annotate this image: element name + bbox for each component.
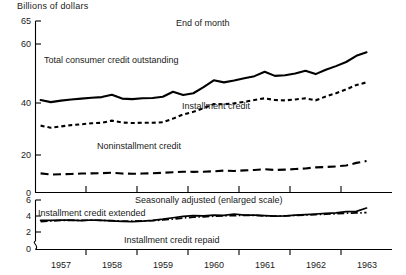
xtick-1958: 1958 [102, 260, 122, 270]
series-noninstallment-credit [41, 161, 367, 175]
bot-ytick-6: 6 [26, 195, 31, 205]
xtick-1959: 1959 [153, 260, 173, 270]
xtick-1962: 1962 [306, 260, 326, 270]
annotation-noninstallment-credit: Noninstallment credit [97, 141, 182, 151]
xtick-1957: 1957 [51, 260, 71, 270]
annotation-credit-extended: Installment credit extended [38, 208, 146, 218]
top-panel-y-tick-labels: 65 60 40 20 0 [21, 16, 31, 198]
xtick-1963: 1963 [357, 260, 377, 270]
chart-canvas: 65 60 40 20 0 End of month Total consume… [0, 0, 406, 275]
top-ytick-60: 60 [21, 39, 31, 49]
bot-ytick-2: 2 [26, 227, 31, 237]
bottom-panel-y-tick-labels: 6 4 2 0 [26, 195, 31, 254]
annotation-seasonally-adjusted: Seasonally adjusted (enlarged scale) [135, 195, 283, 205]
top-ytick-20: 20 [21, 150, 31, 160]
annotation-total-consumer-credit: Total consumer credit outstanding [44, 55, 179, 65]
top-ytick-40: 40 [21, 98, 31, 108]
xtick-1960: 1960 [204, 260, 224, 270]
annotation-credit-repaid: Installment credit repaid [124, 235, 220, 245]
bot-ytick-0: 0 [26, 244, 31, 254]
xtick-1961: 1961 [255, 260, 275, 270]
top-ytick-65: 65 [21, 16, 31, 26]
consumer-credit-figure: Billions of dollars 65 60 40 20 0 [0, 0, 406, 275]
bot-ytick-4: 4 [26, 211, 31, 221]
annotation-end-of-month: End of month [176, 18, 230, 28]
annotation-installment-credit: Installment credit [182, 101, 251, 111]
x-tick-labels: 1957 1958 1959 1960 1961 1962 1963 [51, 260, 377, 270]
